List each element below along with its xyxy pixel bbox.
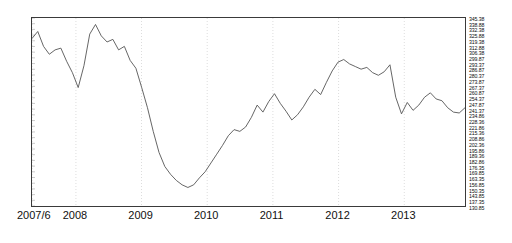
time-series-chart: 2007/6200820092010201120122013 345.38338… xyxy=(0,0,512,243)
x-tick-label-2011: 2011 xyxy=(260,209,284,222)
y-tick-label: 130.85 xyxy=(469,206,484,212)
x-tick-label-2012: 2012 xyxy=(325,209,349,222)
data-series-line xyxy=(32,24,465,187)
x-tick-label-2007-6: 2007/6 xyxy=(17,209,51,222)
y-axis: 345.38338.88332.38325.88319.38312.88306.… xyxy=(469,12,512,212)
plot-svg xyxy=(32,18,465,206)
x-axis: 2007/6200820092010201120122013 xyxy=(0,209,512,229)
x-tick-label-2009: 2009 xyxy=(128,209,152,222)
y-axis-tick-marks xyxy=(32,18,35,206)
plot-area xyxy=(31,17,466,207)
x-tick-label-2010: 2010 xyxy=(194,209,218,222)
x-tick-label-2008: 2008 xyxy=(63,209,87,222)
x-tick-label-2013: 2013 xyxy=(391,209,415,222)
